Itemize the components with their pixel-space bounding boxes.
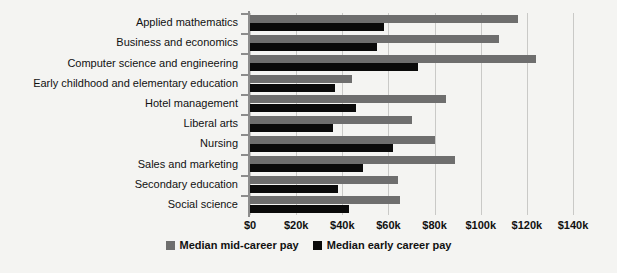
early-career-swatch-icon — [313, 241, 322, 250]
x-tick-label: $60k — [376, 219, 400, 231]
category-label: Business and economics — [0, 36, 238, 48]
bar-mid-career — [250, 156, 455, 164]
y-tick-mark — [241, 134, 248, 136]
bar-early-career — [250, 164, 363, 172]
bar-mid-career — [250, 95, 446, 103]
bar-early-career — [250, 104, 356, 112]
y-tick-mark — [241, 195, 248, 197]
bar-early-career — [250, 124, 333, 132]
x-tick-label: $140k — [558, 219, 589, 231]
gridline — [527, 13, 528, 215]
bar-mid-career — [250, 196, 400, 204]
category-label: Nursing — [0, 137, 238, 149]
bar-mid-career — [250, 75, 352, 83]
y-tick-mark — [241, 53, 248, 55]
y-tick-mark — [241, 33, 248, 35]
legend-label-early-career: Median early career pay — [327, 239, 452, 251]
bar-early-career — [250, 43, 377, 51]
bar-mid-career — [250, 136, 435, 144]
x-tick-label: $120k — [512, 219, 543, 231]
bar-mid-career — [250, 116, 412, 124]
gridline — [573, 13, 574, 215]
legend-label-mid-career: Median mid-career pay — [180, 239, 299, 251]
y-tick-mark — [241, 175, 248, 177]
bar-mid-career — [250, 176, 398, 184]
category-label: Liberal arts — [0, 117, 238, 129]
bar-mid-career — [250, 55, 536, 63]
mid-career-swatch-icon — [166, 241, 175, 250]
bar-early-career — [250, 144, 393, 152]
horizontal-bar-chart: Applied mathematicsBusiness and economic… — [0, 0, 617, 273]
bar-early-career — [250, 23, 384, 31]
x-tick-label: $80k — [422, 219, 446, 231]
chart-legend: Median mid-career pay Median early caree… — [0, 239, 617, 251]
category-label: Hotel management — [0, 97, 238, 109]
category-label: Applied mathematics — [0, 16, 238, 28]
bar-early-career — [250, 84, 335, 92]
bar-early-career — [250, 63, 418, 71]
bar-early-career — [250, 205, 349, 213]
y-tick-mark — [241, 74, 248, 76]
bar-early-career — [250, 185, 338, 193]
category-label: Early childhood and elementary education — [0, 77, 238, 89]
category-label: Secondary education — [0, 178, 238, 190]
plot-area — [250, 13, 580, 215]
legend-item-mid-career[interactable]: Median mid-career pay — [166, 239, 299, 251]
category-label: Sales and marketing — [0, 158, 238, 170]
y-tick-mark — [241, 154, 248, 156]
category-label: Computer science and engineering — [0, 57, 238, 69]
y-tick-mark — [241, 94, 248, 96]
x-tick-label: $100k — [465, 219, 496, 231]
x-tick-label: $20k — [284, 219, 308, 231]
x-tick-label: $40k — [330, 219, 354, 231]
y-tick-mark — [241, 114, 248, 116]
bar-mid-career — [250, 15, 518, 23]
y-tick-mark — [241, 13, 248, 15]
gridline — [388, 13, 389, 215]
gridline — [481, 13, 482, 215]
bar-mid-career — [250, 35, 499, 43]
legend-item-early-career[interactable]: Median early career pay — [313, 239, 452, 251]
gridline — [435, 13, 436, 215]
category-label: Social science — [0, 198, 238, 210]
x-tick-label: $0 — [244, 219, 256, 231]
